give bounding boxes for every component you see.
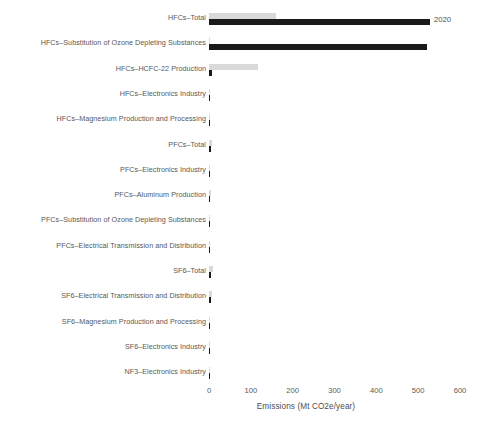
bar-2020-10 — [209, 272, 211, 278]
category-label-4: HFCs–Magnesium Production and Processing — [0, 114, 206, 124]
chart-row: HFCs–HCFC-22 Production — [0, 64, 484, 90]
bar-2020-8 — [209, 221, 210, 227]
x-axis-title-text: Emissions (Mt CO2e/year) — [257, 402, 355, 411]
chart-row: PFCs–Electrical Transmission and Distrib… — [0, 241, 484, 267]
bar-2020-5 — [209, 146, 211, 152]
bar-2020-2 — [209, 70, 212, 76]
category-label-0: HFCs–Total — [0, 13, 206, 23]
series-annotation-2020: 2020 — [434, 15, 451, 24]
category-label-8: PFCs–Substitution of Ozone Depleting Sub… — [0, 215, 206, 225]
x-tick-label-0: 0 — [207, 386, 211, 395]
category-label-10: SF6–Total — [0, 266, 206, 276]
bar-2020-3 — [209, 95, 210, 101]
x-tick-label-100: 100 — [244, 386, 257, 395]
bar-2020-7 — [209, 196, 210, 202]
category-label-2: HFCs–HCFC-22 Production — [0, 64, 206, 74]
category-label-11: SF6–Electrical Transmission and Distribu… — [0, 291, 206, 301]
x-axis: 0100200300400500600 — [0, 386, 484, 402]
category-label-12: SF6–Magnesium Production and Processing — [0, 317, 206, 327]
bar-2020-13 — [209, 348, 210, 354]
chart-row: HFCs–Total — [0, 13, 484, 39]
category-label-5: PFCs–Total — [0, 140, 206, 150]
bar-2020-14 — [209, 373, 210, 379]
chart-row: PFCs–Substitution of Ozone Depleting Sub… — [0, 215, 484, 241]
x-tick-label-200: 200 — [286, 386, 299, 395]
chart-row: SF6–Electronics Industry — [0, 342, 484, 368]
x-tick-label-600: 600 — [454, 386, 467, 395]
bar-earlier-2 — [209, 64, 258, 70]
bar-2020-12 — [209, 323, 210, 329]
category-label-3: HFCs–Electronics Industry — [0, 89, 206, 99]
chart-row: PFCs–Electronics Industry — [0, 165, 484, 191]
bar-2020-11 — [209, 297, 211, 303]
chart-row: HFCs–Magnesium Production and Processing — [0, 114, 484, 140]
chart-row: PFCs–Aluminum Production — [0, 190, 484, 216]
category-label-14: NF3–Electronics Industry — [0, 367, 206, 377]
chart-row: SF6–Magnesium Production and Processing — [0, 317, 484, 343]
category-label-6: PFCs–Electronics Industry — [0, 165, 206, 175]
x-axis-title: Emissions (Mt CO2e/year) — [0, 402, 484, 411]
bar-2020-1 — [209, 44, 427, 50]
chart-row: SF6–Total — [0, 266, 484, 292]
category-label-9: PFCs–Electrical Transmission and Distrib… — [0, 241, 206, 251]
bar-2020-9 — [209, 247, 210, 253]
category-label-7: PFCs–Aluminum Production — [0, 190, 206, 200]
category-label-13: SF6–Electronics Industry — [0, 342, 206, 352]
x-tick-label-400: 400 — [370, 386, 383, 395]
emissions-bar-chart: HFCs–TotalHFCs–Substitution of Ozone Dep… — [0, 0, 484, 428]
chart-row: HFCs–Electronics Industry — [0, 89, 484, 115]
x-tick-label-300: 300 — [328, 386, 341, 395]
bar-2020-0 — [209, 19, 430, 25]
category-label-1: HFCs–Substitution of Ozone Depleting Sub… — [0, 38, 206, 48]
bar-2020-6 — [209, 171, 210, 177]
chart-row: HFCs–Substitution of Ozone Depleting Sub… — [0, 38, 484, 64]
chart-row: SF6–Electrical Transmission and Distribu… — [0, 291, 484, 317]
chart-row: PFCs–Total — [0, 140, 484, 166]
bar-2020-4 — [209, 120, 210, 126]
x-tick-label-500: 500 — [412, 386, 425, 395]
